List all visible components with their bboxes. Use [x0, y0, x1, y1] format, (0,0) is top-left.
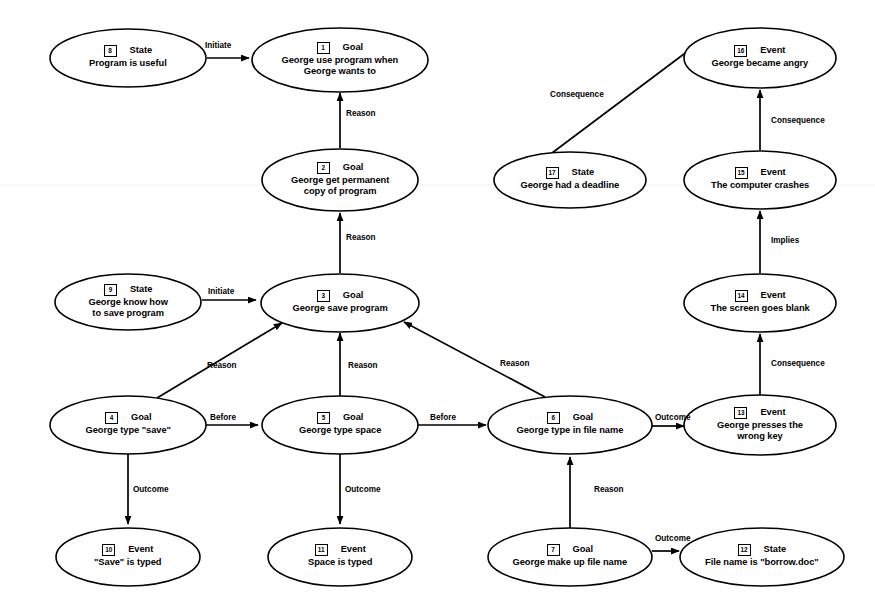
edge-6-to-3	[404, 322, 545, 397]
node-ellipse-12[interactable]	[680, 528, 844, 586]
node-ellipse-4[interactable]	[50, 396, 206, 454]
diagram-canvas: InitiateReasonReasonInitiateReasonReason…	[0, 0, 875, 604]
edges-layer	[128, 45, 760, 551]
node-ellipse-13[interactable]	[684, 395, 836, 455]
edge-17-to-16	[552, 45, 696, 153]
nodes-layer	[50, 28, 844, 586]
node-ellipse-15[interactable]	[684, 151, 836, 209]
node-ellipse-2[interactable]	[262, 149, 418, 211]
node-ellipse-16[interactable]	[684, 28, 836, 88]
node-ellipse-17[interactable]	[494, 152, 646, 208]
node-ellipse-5[interactable]	[262, 396, 418, 454]
node-ellipse-6[interactable]	[488, 396, 652, 454]
diagram-svg	[0, 0, 875, 604]
node-ellipse-11[interactable]	[268, 528, 412, 586]
node-ellipse-8[interactable]	[50, 29, 206, 87]
node-ellipse-3[interactable]	[261, 274, 419, 332]
node-ellipse-10[interactable]	[56, 528, 200, 586]
node-ellipse-1[interactable]	[252, 28, 428, 92]
node-ellipse-7[interactable]	[488, 528, 652, 586]
node-ellipse-9[interactable]	[55, 274, 201, 330]
node-ellipse-14[interactable]	[684, 274, 836, 332]
edge-4-to-3	[157, 323, 282, 398]
